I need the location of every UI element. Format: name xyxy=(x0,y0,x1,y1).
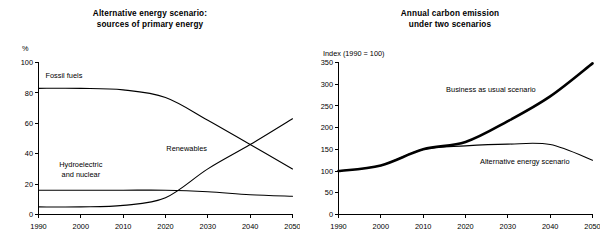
chart-panel-annual-carbon-emission: Annual carbon emission under two scenari… xyxy=(300,0,600,243)
y-tick-label: 0 xyxy=(29,210,33,219)
x-tick-label: 1990 xyxy=(330,222,346,231)
x-tick-label: 2040 xyxy=(242,222,258,231)
figure-container: Alternative energy scenario: sources of … xyxy=(0,0,600,243)
series-annotation-label: Hydroelectricand nuclear xyxy=(59,160,102,179)
x-tick-labels-right: 1990200020102020203020402050 xyxy=(330,222,600,231)
y-tick-label: 100 xyxy=(21,58,33,67)
y-tick-label: 60 xyxy=(25,119,33,128)
y-tick-label: 350 xyxy=(321,58,333,67)
x-tick-label: 2000 xyxy=(73,222,89,231)
x-tick-label: 2010 xyxy=(415,222,431,231)
y-tick-label: 200 xyxy=(321,123,333,132)
y-tick-label: 100 xyxy=(321,167,333,176)
series-line xyxy=(339,63,593,171)
y-tick-label: 80 xyxy=(25,89,33,98)
axis-lines-left xyxy=(39,63,293,215)
x-tick-label: 2020 xyxy=(157,222,173,231)
y-tick-label: 300 xyxy=(321,80,333,89)
y-tick-label: 150 xyxy=(321,145,333,154)
y-axis-unit-right: Index (1990 = 100) xyxy=(323,50,384,58)
y-tick-labels-left: 020406080100 xyxy=(21,58,33,219)
x-tick-label: 2020 xyxy=(457,222,473,231)
plot-area-right: 050100150200250300350 199020002010202020… xyxy=(300,0,600,243)
y-tick-label: 250 xyxy=(321,102,333,111)
x-tick-labels-left: 1990200020102020203020402050 xyxy=(30,222,300,231)
y-tick-labels-right: 050100150200250300350 xyxy=(321,58,333,219)
series-annotation-label: Fossil fuels xyxy=(45,71,82,80)
data-series-right xyxy=(339,63,593,171)
x-tick-label: 2040 xyxy=(542,222,558,231)
series-annotation-label: Renewables xyxy=(166,144,207,153)
x-tick-label: 2030 xyxy=(200,222,216,231)
x-tick-label: 1990 xyxy=(30,222,46,231)
x-tick-label: 2050 xyxy=(584,222,600,231)
chart-panel-alternative-energy-sources: Alternative energy scenario: sources of … xyxy=(0,0,300,243)
series-line xyxy=(39,88,293,169)
series-annotation-label: Alternative energy scenario xyxy=(480,157,570,166)
y-tick-label: 40 xyxy=(25,149,33,158)
y-tick-label: 50 xyxy=(325,188,333,197)
x-tick-label: 2030 xyxy=(500,222,516,231)
x-tick-label: 2050 xyxy=(284,222,300,231)
x-tick-label: 2010 xyxy=(115,222,131,231)
y-tick-label: 0 xyxy=(329,210,333,219)
series-annotations-left: Fossil fuelsHydroelectricand nuclearRene… xyxy=(45,71,207,179)
series-annotation-label: Business as usual scenario xyxy=(446,85,536,94)
x-tick-label: 2000 xyxy=(373,222,389,231)
plot-area-left: 020406080100 199020002010202020302040205… xyxy=(0,0,300,243)
series-line xyxy=(39,190,293,196)
y-tick-label: 20 xyxy=(25,180,33,189)
